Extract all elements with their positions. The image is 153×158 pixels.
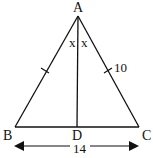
triangle-diagram: A B C D x x 10 14 (0, 0, 153, 158)
arrowhead-right-icon (129, 141, 139, 151)
side-label-ac: 10 (114, 60, 127, 75)
vertex-label-b: B (3, 128, 12, 143)
arrowhead-left-icon (14, 141, 24, 151)
segment-ad (77, 16, 78, 127)
angle-label-right: x (81, 35, 88, 50)
tick-ac (104, 68, 112, 73)
side-label-bc: 14 (73, 141, 87, 156)
vertex-label-a: A (73, 0, 84, 15)
angle-label-left: x (69, 35, 76, 50)
vertex-label-c: C (142, 128, 151, 143)
side-ac (78, 16, 139, 127)
